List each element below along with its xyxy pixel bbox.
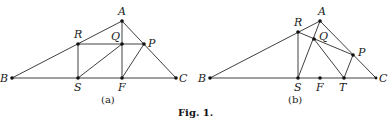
- label-p: P: [357, 46, 366, 59]
- label-r: R: [73, 28, 82, 41]
- figure-a: A B C R Q P S F (a): [0, 5, 188, 105]
- point-q: [312, 37, 316, 41]
- label-p: P: [147, 37, 156, 50]
- figure-caption: Fig. 1.: [178, 107, 213, 118]
- point-q: [120, 42, 124, 46]
- segment-tp: [344, 55, 353, 78]
- point-f: [120, 76, 124, 80]
- label-b: B: [0, 72, 8, 85]
- label-s: S: [294, 81, 302, 94]
- label-q: Q: [111, 30, 120, 43]
- label-c: C: [179, 72, 188, 85]
- point-a: [120, 19, 124, 23]
- segment-ab: [210, 21, 320, 78]
- label-r: R: [293, 16, 302, 29]
- point-b: [10, 76, 14, 80]
- point-c: [375, 77, 378, 80]
- label-f: F: [117, 81, 126, 94]
- segment-fp: [122, 44, 144, 78]
- point-b: [208, 76, 212, 80]
- point-r: [76, 42, 80, 46]
- point-a: [318, 19, 322, 23]
- sublabel-b: (b): [288, 94, 302, 105]
- label-s: S: [74, 81, 82, 94]
- figure-canvas: A B C R Q P S F (a) A B C R Q P S F: [0, 0, 388, 120]
- point-s: [76, 76, 80, 80]
- segment-sq: [78, 44, 122, 78]
- segment-ac: [320, 21, 376, 78]
- segment-sa: [298, 21, 320, 78]
- point-t: [342, 76, 346, 80]
- point-p: [351, 53, 355, 57]
- point-r: [296, 30, 300, 34]
- point-p: [142, 42, 146, 46]
- point-f: [318, 76, 322, 80]
- label-a: A: [317, 5, 326, 18]
- sublabel-a: (a): [101, 94, 115, 105]
- label-q: Q: [319, 30, 328, 43]
- label-t: T: [339, 81, 348, 94]
- figure-b: A B C R Q P S F T (b): [197, 5, 388, 105]
- label-c: C: [379, 72, 388, 85]
- label-f: F: [315, 81, 324, 94]
- point-c: [174, 76, 178, 80]
- label-b: B: [197, 72, 206, 85]
- segment-ab: [12, 21, 122, 78]
- label-a: A: [117, 5, 126, 18]
- point-s: [296, 76, 300, 80]
